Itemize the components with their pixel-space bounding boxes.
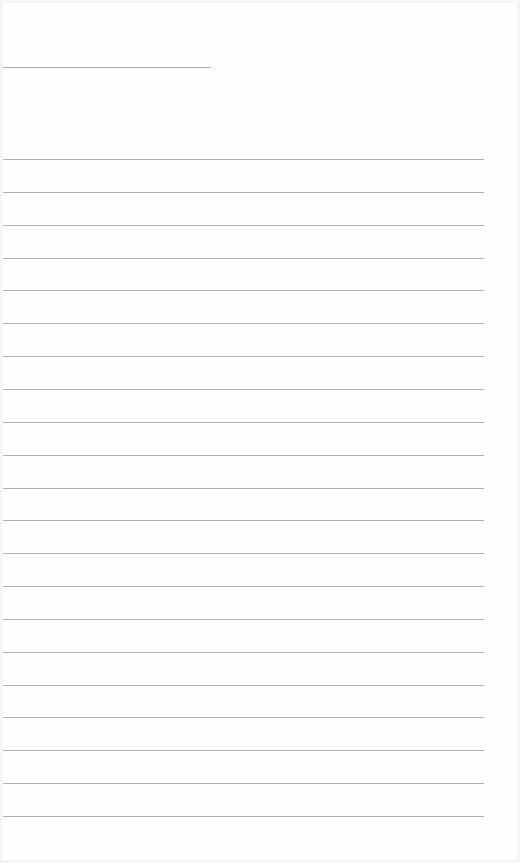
ruled-line <box>3 488 484 489</box>
title-underline <box>3 67 211 68</box>
ruled-line <box>3 389 484 390</box>
scan-top-edge <box>0 0 520 3</box>
ruled-line <box>3 290 484 291</box>
ruled-line <box>3 455 484 456</box>
ruled-line <box>3 520 484 521</box>
ruled-line <box>3 258 484 259</box>
ruled-line <box>3 553 484 554</box>
ruled-line <box>3 192 484 193</box>
ruled-line <box>3 422 484 423</box>
ruled-line <box>3 159 484 160</box>
ruled-line <box>3 685 484 686</box>
ruled-line <box>3 750 484 751</box>
ruled-line <box>3 652 484 653</box>
scan-left-edge <box>0 0 4 863</box>
scan-right-edge <box>514 0 520 863</box>
ruled-line <box>3 717 484 718</box>
ruled-line <box>3 586 484 587</box>
ruled-line <box>3 619 484 620</box>
lined-page <box>0 0 520 863</box>
ruled-line <box>3 783 484 784</box>
ruled-line <box>3 225 484 226</box>
ruled-line <box>3 816 484 817</box>
ruled-line <box>3 356 484 357</box>
ruled-line <box>3 323 484 324</box>
